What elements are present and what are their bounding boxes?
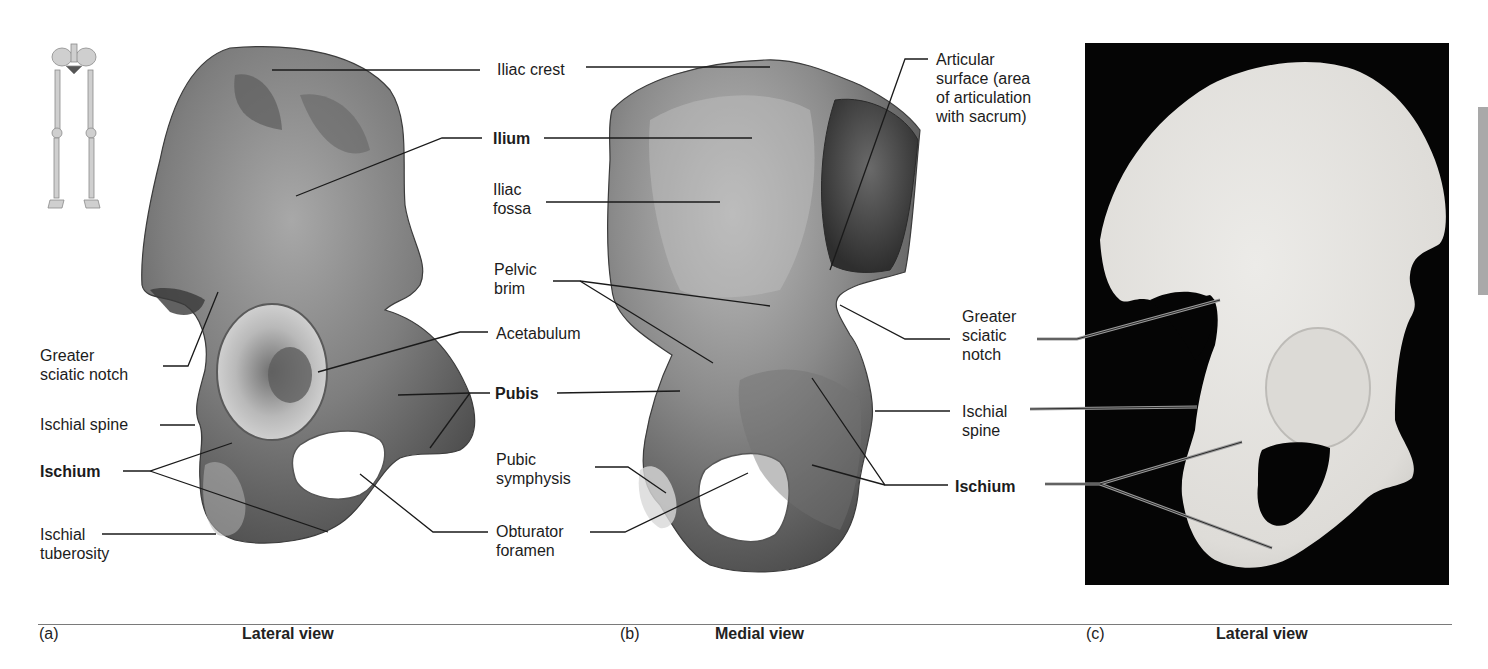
panel-b-view-caption: Medial view [715, 625, 804, 643]
chapter-side-tab [1478, 107, 1488, 295]
label-line: spine [962, 421, 1007, 440]
skeleton-icon [44, 40, 104, 220]
hip-bone-medial-illustration [608, 60, 920, 572]
label-line: tuberosity [40, 544, 109, 563]
label-line: Iliac [493, 180, 531, 199]
label-line: foramen [496, 541, 564, 560]
label-ischial-spine-a: Ischial spine [40, 415, 128, 434]
label-articular-surface: Articular surface (area of articulation … [936, 50, 1031, 126]
label-greater-sciatic-notch-a: Greater sciatic notch [40, 346, 128, 384]
figure-artwork [0, 0, 1488, 669]
label-line: Ischial [40, 525, 109, 544]
label-line: Greater [962, 307, 1016, 326]
label-line: Pubic [496, 450, 571, 469]
label-obturator-foramen: Obturator foramen [496, 522, 564, 560]
hip-bone-lateral-illustration [142, 47, 475, 543]
label-acetabulum: Acetabulum [496, 324, 581, 343]
label-line: Greater [40, 346, 128, 365]
label-line: Articular [936, 50, 1031, 69]
label-ischium-a: Ischium [40, 462, 100, 481]
label-pubis: Pubis [495, 384, 539, 403]
panel-b-letter: (b) [620, 625, 640, 643]
panel-c-letter: (c) [1086, 625, 1105, 643]
label-greater-sciatic-notch-c: Greater sciatic notch [962, 307, 1016, 364]
label-line: fossa [493, 199, 531, 218]
label-ischium-c: Ischium [955, 477, 1015, 496]
label-line: Ischial [962, 402, 1007, 421]
label-line: of articulation [936, 88, 1031, 107]
label-line: brim [494, 279, 537, 298]
label-pubic-symphysis: Pubic symphysis [496, 450, 571, 488]
label-line: with sacrum) [936, 107, 1031, 126]
label-line: Pelvic [494, 260, 537, 279]
label-line: Obturator [496, 522, 564, 541]
label-ilium: Ilium [493, 129, 530, 148]
label-line: symphysis [496, 469, 571, 488]
panel-a-view-caption: Lateral view [242, 625, 334, 643]
label-iliac-fossa: Iliac fossa [493, 180, 531, 218]
panel-c-view-caption: Lateral view [1216, 625, 1308, 643]
label-line: sciatic [962, 326, 1016, 345]
label-line: surface (area [936, 69, 1031, 88]
label-pelvic-brim: Pelvic brim [494, 260, 537, 298]
panel-a-letter: (a) [39, 625, 59, 643]
label-line: sciatic notch [40, 365, 128, 384]
label-iliac-crest: Iliac crest [497, 60, 565, 79]
label-ischial-tuberosity-a: Ischial tuberosity [40, 525, 109, 563]
label-ischial-spine-c: Ischial spine [962, 402, 1007, 440]
label-line: notch [962, 345, 1016, 364]
